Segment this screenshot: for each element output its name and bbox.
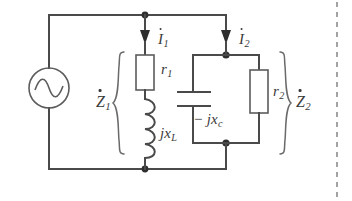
component-label-r2-subscript: 2 <box>279 90 284 101</box>
current-label-i1-subscript: 1 <box>163 38 168 49</box>
impedance-label-z2-subscript: 2 <box>305 100 310 112</box>
component-label-r1-subscript: 1 <box>167 68 172 79</box>
impedance-label-z1-symbol: Z <box>96 94 105 110</box>
brace-z2 <box>280 52 291 154</box>
ac-source-sine-icon <box>35 79 63 97</box>
brace-z1 <box>113 52 124 154</box>
impedance-label-z1: Z1 <box>96 94 111 112</box>
component-label-r2-symbol: r <box>273 83 279 99</box>
circuit-diagram-figure: I1 I2 Z1 Z2 r1 jxL − jxc r2 <box>0 0 352 201</box>
component-label-r1-symbol: r <box>161 61 167 77</box>
impedance-label-z1-subscript: 1 <box>105 100 110 112</box>
current-label-i2-subscript: 2 <box>244 38 249 49</box>
impedance-label-z2-symbol: Z <box>296 94 305 110</box>
component-label-jxl: jxL <box>160 126 177 143</box>
current-label-i1: I1 <box>158 32 168 49</box>
component-label-jxl-symbol: jx <box>160 125 171 141</box>
component-label-jxl-subscript: L <box>171 132 177 143</box>
current-label-i2: I2 <box>239 32 249 49</box>
current-label-i2-symbol: I <box>239 32 244 47</box>
component-label-jxc-subscript: c <box>218 118 223 129</box>
resistor-r1-body <box>136 55 154 90</box>
component-label-r2: r2 <box>273 84 284 101</box>
impedance-label-z2: Z2 <box>296 94 311 112</box>
inductor-jxl-coil <box>145 99 155 158</box>
current-label-i1-symbol: I <box>158 32 163 47</box>
component-label-jxc: − jxc <box>193 112 223 129</box>
component-label-jxc-symbol: − jx <box>193 111 218 127</box>
resistor-r2-body <box>250 70 268 113</box>
component-label-r1: r1 <box>161 62 172 79</box>
